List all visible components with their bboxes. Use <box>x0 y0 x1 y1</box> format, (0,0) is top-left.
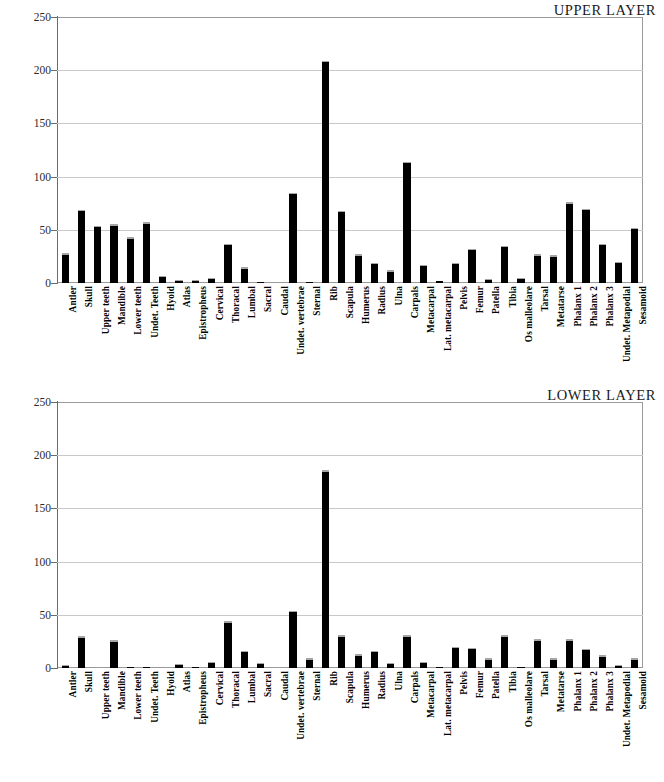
x-tick-label-text: Antler <box>68 286 78 312</box>
x-tick-label-text: Sesamoid <box>638 671 648 710</box>
bar <box>566 639 573 668</box>
x-tick-label: Tarsal <box>537 286 547 312</box>
x-tick-label: Sacral <box>260 671 270 697</box>
bar-highlight <box>485 279 492 281</box>
x-tick-label: Undet. vertebrae <box>293 286 303 355</box>
bar <box>241 267 248 283</box>
x-axis-labels-lower: AntlerSkullUpper teethMandibleLower teet… <box>57 671 643 771</box>
bar <box>501 635 508 668</box>
bar-highlight <box>615 665 622 667</box>
chart-upper-layer: UPPER LAYER 050100150200250 AntlerSkullU… <box>0 0 664 390</box>
bar-highlight <box>468 249 475 251</box>
x-tick-label-text: Pelvis <box>459 286 469 310</box>
bar-highlight <box>452 647 459 649</box>
x-tick-label: Mandible <box>114 286 124 325</box>
x-tick-label: Phalanx 2 <box>586 671 596 711</box>
x-tick-label-text: Scapula <box>345 671 355 703</box>
x-tick-label-text: Phalanx 1 <box>573 671 583 711</box>
bar <box>192 280 199 283</box>
bar <box>62 665 69 668</box>
bar <box>420 662 427 668</box>
bar-highlight <box>387 663 394 665</box>
bar-highlight <box>78 210 85 212</box>
bar-highlight <box>208 278 215 280</box>
bar-highlight <box>289 611 296 613</box>
y-tick-label: 50 <box>5 609 51 621</box>
chart-lower-layer: LOWER LAYER 050100150200250 AntlerSkullU… <box>0 385 664 782</box>
gridline <box>57 455 643 456</box>
x-tick-label: Sternal <box>309 286 319 316</box>
y-axis-ticks-lower: 050100150200250 <box>0 385 51 775</box>
x-tick-label: Hyoid <box>163 286 173 311</box>
bar <box>289 611 296 668</box>
bar-highlight <box>338 635 345 637</box>
x-tick-label-text: Caudal <box>280 286 290 316</box>
bar <box>387 663 394 668</box>
bar <box>175 280 182 283</box>
x-tick-label-text: Skull <box>84 286 94 307</box>
x-tick-label: Phalanx 1 <box>570 286 580 326</box>
x-tick-label: Undet. Teeth <box>147 671 157 723</box>
x-tick-label-text: Undet. vertebrae <box>296 286 306 355</box>
x-tick-label: Rib <box>326 671 336 686</box>
gridline <box>57 562 643 563</box>
bar <box>143 222 150 283</box>
bar <box>94 226 101 283</box>
x-tick-label: Os malleolare <box>521 286 531 342</box>
bar <box>127 237 134 283</box>
x-tick-label-text: Rib <box>329 286 339 301</box>
x-tick-label: Radius <box>374 286 384 315</box>
x-tick-label: Lumbal <box>244 286 254 318</box>
bar <box>436 667 443 668</box>
x-tick-label: Ulna <box>391 286 401 306</box>
bar-highlight <box>403 635 410 637</box>
y-tick-label: 200 <box>5 64 51 76</box>
x-tick-label-text: Lower teeth <box>133 671 143 720</box>
x-tick-label-text: Sternal <box>312 671 322 701</box>
x-tick-label-text: Ulna <box>394 286 404 306</box>
x-tick-label-text: Patella <box>491 671 501 699</box>
bar-highlight <box>322 61 329 63</box>
bar-highlight <box>94 226 101 228</box>
y-tick-label: 250 <box>5 11 51 23</box>
x-tick-label: Epistropheus <box>195 286 205 340</box>
x-tick-label-text: Upper teeth <box>101 286 111 334</box>
gridline <box>57 615 643 616</box>
bar-highlight <box>62 253 69 255</box>
bar <box>501 246 508 283</box>
bar-highlight <box>175 280 182 282</box>
y-tick-label: 0 <box>5 662 51 674</box>
x-tick-label: Lower teeth <box>130 286 140 335</box>
bar-highlight <box>143 222 150 224</box>
bar <box>403 635 410 668</box>
bar <box>615 262 622 283</box>
bar <box>208 278 215 283</box>
x-tick-label-text: Sternal <box>312 286 322 316</box>
x-tick-label-text: Cervical <box>215 671 225 705</box>
bar <box>631 658 638 668</box>
bar <box>468 249 475 283</box>
bar <box>241 651 248 668</box>
bar <box>322 470 329 668</box>
x-tick-label: Humerus <box>358 286 368 324</box>
x-tick-label-text: Os malleolare <box>524 286 534 342</box>
y-tick-label: 100 <box>5 171 51 183</box>
x-tick-label: Lat. metacarpal <box>440 286 450 351</box>
x-tick-label: Phalanx 2 <box>586 286 596 326</box>
bar <box>289 193 296 283</box>
x-tick-label: Metacarpal <box>423 286 433 333</box>
x-tick-label-text: Tarsal <box>540 286 550 312</box>
x-tick-label: Atlas <box>179 671 189 692</box>
bar-highlight <box>208 662 215 664</box>
bar <box>224 621 231 668</box>
bar-highlight <box>62 665 69 667</box>
bar-highlight <box>631 658 638 660</box>
bar-highlight <box>241 267 248 269</box>
bar <box>78 636 85 668</box>
x-tick-label: Undet. vertebrae <box>293 671 303 740</box>
x-tick-label: Mandible <box>114 671 124 710</box>
bar <box>582 209 589 283</box>
x-tick-label-text: Undet. Metapodial <box>622 671 632 747</box>
bar <box>566 202 573 283</box>
bar-highlight <box>175 664 182 666</box>
